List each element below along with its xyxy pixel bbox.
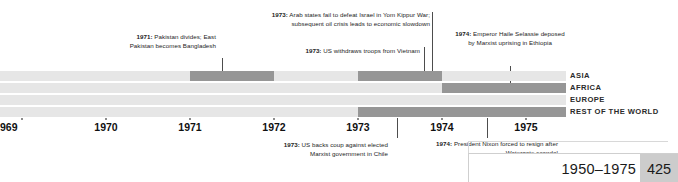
timeline-row-africa (0, 83, 566, 93)
annotation-pakistan-year: 1971: (137, 33, 153, 40)
leader-line-yom-kippur (432, 12, 433, 72)
annotation-yom-kippur-text: Arab states fail to defeat Israel in Yom… (288, 11, 430, 27)
segment-asia-1 (0, 71, 190, 81)
annotation-ethiopia: 1974: Emperor Haile Selassie deposed by … (452, 30, 568, 48)
segment-asia-2 (190, 71, 274, 81)
annotation-vietnam-text: US withdraws troops from Vietnam (321, 47, 420, 54)
segment-africa-1 (0, 83, 442, 93)
time-axis: 969 1970 1971 1972 1973 1974 1975 (0, 118, 566, 140)
axis-tick-1971 (189, 118, 191, 120)
annotation-pakistan: 1971: Pakistan divides; East Pakistan be… (120, 33, 216, 51)
axis-label-1970: 1970 (94, 121, 117, 133)
leader-line-vietnam (424, 47, 425, 72)
axis-label-1972: 1972 (262, 121, 285, 133)
axis-tick-1969 (21, 118, 23, 120)
annotation-chile-year: 1973: (284, 141, 300, 148)
timeline-row-asia (0, 71, 566, 81)
timeline-figure: 1971: Pakistan divides; East Pakistan be… (0, 0, 678, 182)
row-label-list: ASIA AFRICA EUROPE REST OF THE WORLD (570, 71, 678, 117)
segment-africa-2 (442, 83, 566, 93)
segment-asia-5 (442, 71, 566, 81)
leader-line-watergate (487, 118, 488, 138)
row-label-africa: AFRICA (570, 83, 601, 93)
annotation-chile-text: US backs coup against elected Marxist go… (300, 141, 388, 157)
annotation-vietnam-year: 1973: (305, 47, 321, 54)
leader-line-chile (397, 118, 398, 138)
segment-row-1 (0, 107, 358, 117)
segment-row-2 (358, 107, 566, 117)
annotation-watergate-year: 1974: (436, 140, 452, 147)
axis-tick-1972 (273, 118, 275, 120)
timeline-row-europe (0, 95, 566, 105)
annotation-vietnam: 1973: US withdraws troops from Vietnam (300, 47, 420, 56)
axis-tick-1975 (525, 118, 527, 120)
row-label-europe: EUROPE (570, 95, 605, 105)
axis-label-1969: 969 (0, 121, 18, 133)
axis-label-1973: 1973 (346, 121, 369, 133)
annotation-ethiopia-text: Emperor Haile Selassie deposed by Marxis… (468, 30, 565, 46)
row-label-rest-of-the-world: REST OF THE WORLD (570, 107, 659, 117)
segment-asia-4 (358, 71, 442, 81)
timeline-row-rest-of-the-world (0, 107, 566, 117)
timeline-bars (0, 71, 566, 117)
axis-label-1974: 1974 (430, 121, 453, 133)
leader-line-pakistan (222, 58, 223, 72)
annotation-yom-kippur-year: 1973: (272, 11, 288, 18)
row-label-asia: ASIA (570, 71, 590, 81)
segment-europe-1 (0, 95, 566, 105)
annotation-ethiopia-year: 1974: (455, 30, 471, 37)
axis-tick-1973 (357, 118, 359, 120)
annotation-chile: 1973: US backs coup against elected Marx… (268, 141, 388, 159)
axis-tick-1974 (441, 118, 443, 120)
axis-tick-1970 (105, 118, 107, 120)
axis-label-1971: 1971 (178, 121, 201, 133)
segment-asia-3 (274, 71, 358, 81)
annotation-yom-kippur: 1973: Arab states fail to defeat Israel … (258, 11, 430, 29)
page-number: 425 (640, 154, 678, 182)
axis-label-1975: 1975 (514, 121, 537, 133)
footer-date-range: 1950–1975 (562, 161, 636, 177)
page-footer: 1950–1975 425 (468, 153, 678, 182)
